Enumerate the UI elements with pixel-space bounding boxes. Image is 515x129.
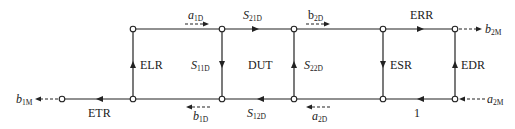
arrow-left-icon xyxy=(96,96,103,102)
label-s22d: S22D xyxy=(304,58,324,73)
arrow-left-icon xyxy=(417,96,424,102)
arrow-up-icon xyxy=(130,61,136,68)
arrow-up-icon xyxy=(291,61,297,68)
labels: a1D S21D b2D ERR b2M ELR S11D DUT S22D E… xyxy=(16,8,504,124)
label-a2d: a2D xyxy=(312,109,328,124)
label-a2m: a2M xyxy=(487,92,504,107)
node xyxy=(219,96,225,102)
label-s11d: S11D xyxy=(191,58,210,73)
label-b1d: b1D xyxy=(193,109,209,124)
node xyxy=(291,96,297,102)
label-unity: 1 xyxy=(414,106,420,120)
node xyxy=(452,96,458,102)
arrow-down-icon xyxy=(219,61,225,68)
label-a1d: a1D xyxy=(188,8,204,23)
node xyxy=(380,96,386,102)
node xyxy=(452,26,458,32)
label-dut: DUT xyxy=(248,58,273,72)
label-s12d: S12D xyxy=(247,106,267,121)
label-edr: EDR xyxy=(461,58,485,72)
node-b1m xyxy=(59,96,65,102)
arrow-down-icon xyxy=(380,61,386,68)
arrow-right-icon xyxy=(252,26,259,32)
label-b2d: b2D xyxy=(308,8,324,23)
label-elr: ELR xyxy=(140,58,163,72)
arrow-up-icon xyxy=(452,61,458,68)
label-b1m: b1M xyxy=(16,92,33,107)
label-s21d: S21D xyxy=(243,8,263,23)
arrow-right-icon xyxy=(417,26,424,32)
arrow-left-icon xyxy=(257,96,264,102)
node xyxy=(219,26,225,32)
label-etr: ETR xyxy=(88,106,111,120)
signal-flow-diagram: a1D S21D b2D ERR b2M ELR S11D DUT S22D E… xyxy=(0,0,515,129)
label-esr: ESR xyxy=(390,58,412,72)
label-b2m: b2M xyxy=(485,22,502,37)
node xyxy=(130,96,136,102)
node xyxy=(291,26,297,32)
label-err: ERR xyxy=(410,8,433,22)
node xyxy=(130,26,136,32)
node xyxy=(380,26,386,32)
